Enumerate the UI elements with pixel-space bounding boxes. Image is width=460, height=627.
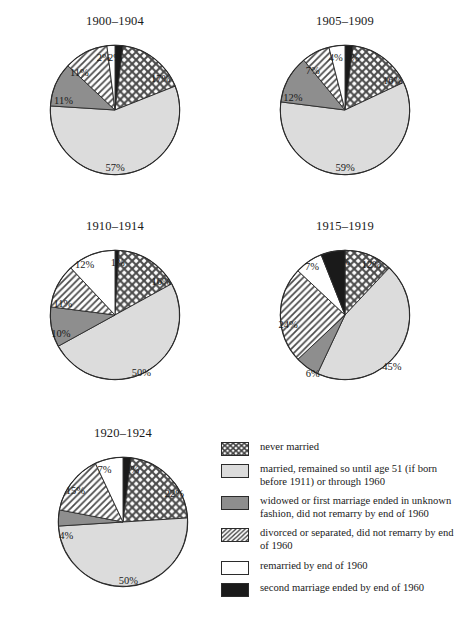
- legend-item-remarried: remarried by end of 1960: [221, 560, 460, 575]
- pie-area: 2%17%57%11%11%2%: [49, 44, 181, 176]
- pie-svg: [49, 44, 181, 176]
- chart-title: 1915–1919: [230, 219, 460, 234]
- legend-label: never married: [260, 441, 319, 454]
- legend-label: widowed or first marriage ended in unkno…: [260, 495, 460, 520]
- pie-svg: [279, 44, 411, 176]
- legend: never married married, remained so until…: [221, 441, 460, 604]
- pie-area: 2%16%59%12%7%4%: [279, 44, 411, 176]
- pie-area: 12%45%6%24%7%6%: [279, 249, 411, 381]
- legend-label: second marriage ended by end of 1960: [260, 582, 424, 595]
- pie-chart-1915-1919: 1915–1919 12%45%6%24%7%6%: [230, 205, 460, 415]
- chart-title: 1920–1924: [8, 426, 238, 441]
- legend-label: remarried by end of 1960: [260, 560, 368, 573]
- legend-item-divorced-separated: divorced or separated, did not remarry b…: [221, 527, 460, 552]
- pie-chart-1905-1909: 1905–1909 2%16%59%12%7%4%: [230, 0, 460, 210]
- chart-title: 1905–1909: [230, 14, 460, 29]
- dark-gray-swatch-icon: [221, 496, 249, 510]
- legend-item-widowed-unknown: widowed or first marriage ended in unkno…: [221, 495, 460, 520]
- white-swatch-icon: [221, 561, 249, 575]
- legend-label: married, remained so until age 51 (if bo…: [260, 463, 460, 488]
- chart-title: 1910–1914: [0, 219, 230, 234]
- chart-title: 1900–1904: [0, 14, 230, 29]
- figure-pie-chart-panel: 1900–1904 2%17%57%11%11%2% 1905–1909 2%1…: [0, 0, 460, 627]
- pie-slice: [58, 518, 187, 587]
- black-swatch-icon: [221, 583, 249, 597]
- pie-svg: [57, 456, 189, 588]
- pie-area: 1%16%50%10%11%12%: [49, 249, 181, 381]
- crosshatch-swatch-icon: [221, 442, 249, 456]
- pie-chart-1900-1904: 1900–1904 2%17%57%11%11%2%: [0, 0, 230, 210]
- legend-item-never-married: never married: [221, 441, 460, 456]
- pie-chart-1920-1924: 1920–1924 2%22%50%4%15%7%: [8, 412, 238, 622]
- light-gray-swatch-icon: [221, 464, 249, 478]
- pie-slice: [123, 458, 188, 522]
- legend-item-second-marriage-ended: second marriage ended by end of 1960: [221, 582, 460, 597]
- diagonal-hatch-swatch-icon: [221, 528, 249, 542]
- pie-chart-1910-1914: 1910–1914 1%16%50%10%11%12%: [0, 205, 230, 415]
- pie-svg: [49, 249, 181, 381]
- pie-svg: [279, 249, 411, 381]
- legend-item-married-remained: married, remained so until age 51 (if bo…: [221, 463, 460, 488]
- pie-area: 2%22%50%4%15%7%: [57, 456, 189, 588]
- legend-label: divorced or separated, did not remarry b…: [260, 527, 460, 552]
